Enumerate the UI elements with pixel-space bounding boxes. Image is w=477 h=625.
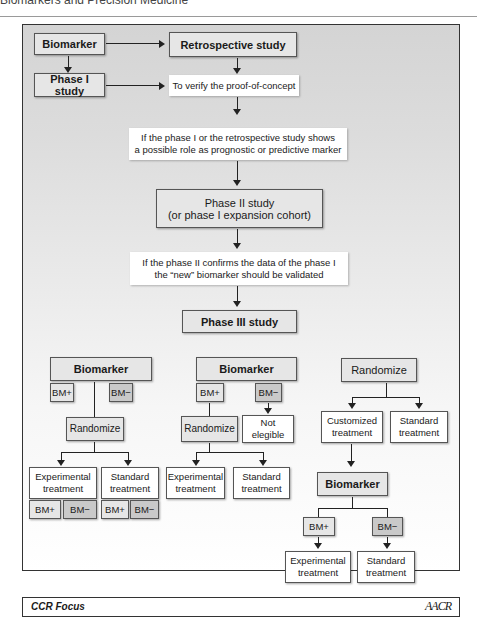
arrow-down-icon <box>233 68 241 74</box>
aacr-logo-icon: AACR <box>425 599 451 614</box>
design2-bm-neg-label: BM− <box>259 387 279 399</box>
design1-exp-bm-neg-label: BM− <box>70 504 90 516</box>
arrow-down-icon <box>259 460 267 466</box>
phase2-line2: (or phase I expansion cohort) <box>168 209 311 221</box>
condition1-line1: If the phase I or the retrospective stud… <box>141 132 335 144</box>
phase1-study-box: Phase I study <box>34 73 105 97</box>
design3-customized-line1: Customized <box>327 415 377 427</box>
design1-randomize-label: Randomize <box>70 423 121 435</box>
design1-biomarker-box: Biomarker <box>50 357 152 381</box>
phase3-label: Phase III study <box>201 316 278 328</box>
design1-std-bm-pos-label: BM+ <box>105 504 125 516</box>
arrow-down-icon <box>192 460 200 466</box>
design3-bm-neg-label: BM− <box>378 521 398 533</box>
design1-biomarker-label: Biomarker <box>74 363 128 375</box>
design3-standard-treatment-line1: Standard <box>367 555 406 567</box>
design2-not-eligible-line1: Not <box>261 417 276 429</box>
connector <box>318 508 319 517</box>
connector <box>352 397 420 398</box>
connector <box>106 43 159 44</box>
condition2-line1: If the phase II confirms the data of the… <box>142 257 335 269</box>
design3-standard-treatment-box: Standard treatment <box>357 551 415 583</box>
connector <box>386 383 387 397</box>
verify-proof-box: To verify the proof-of-concept <box>169 75 299 96</box>
design1-bm-neg-label: BM− <box>111 387 131 399</box>
connector <box>196 452 264 453</box>
connector <box>196 452 197 460</box>
arrow-down-icon <box>264 408 272 414</box>
connector <box>94 382 95 417</box>
header-title: Biomarkers and Precision Medicine <box>0 0 188 7</box>
design1-exp-bm-pos-label: BM+ <box>35 504 55 516</box>
footer-label: CCR Focus <box>31 601 85 612</box>
condition2-line2: the “new” biomarker should be validated <box>155 269 324 281</box>
condition2-box: If the phase II confirms the data of the… <box>130 252 348 285</box>
biomarker-box: Biomarker <box>34 33 105 55</box>
connector <box>106 85 159 86</box>
design3-standard-treatment-line2: treatment <box>366 567 406 579</box>
design1-std-bm-neg-label: BM− <box>135 504 155 516</box>
connector <box>61 452 129 453</box>
connector <box>94 442 95 452</box>
design3-experimental-box: Experimental treatment <box>285 551 351 583</box>
figure-footer: CCR Focus AACR <box>22 597 460 617</box>
design3-experimental-line1: Experimental <box>290 555 345 567</box>
phase2-line1: Phase II study <box>205 197 275 209</box>
design1-standard-line2: treatment <box>110 483 150 495</box>
connector <box>263 452 264 460</box>
arrow-down-icon <box>124 460 132 466</box>
connector <box>237 161 238 180</box>
arrow-down-icon <box>314 543 322 549</box>
connector <box>237 229 238 243</box>
phase1-label: Phase I study <box>35 73 104 97</box>
design2-bm-neg-box: BM− <box>255 383 282 402</box>
design2-not-eligible-box: Not elegible <box>242 415 294 443</box>
design3-biomarker-label: Biomarker <box>325 478 379 490</box>
design2-experimental-line1: Experimental <box>168 471 223 483</box>
connector <box>318 508 388 509</box>
design2-randomize-box: Randomize <box>181 416 238 442</box>
retrospective-label: Retrospective study <box>180 39 285 51</box>
design3-standard-box: Standard treatment <box>390 411 448 443</box>
connector <box>237 286 238 301</box>
design2-standard-box: Standard treatment <box>233 467 290 499</box>
design1-bm-pos-label: BM+ <box>52 387 72 399</box>
design3-randomize-label: Randomize <box>351 364 407 376</box>
phase2-study-box: Phase II study (or phase I expansion coh… <box>156 189 323 228</box>
design2-bm-pos-box: BM+ <box>196 383 224 402</box>
condition1-box: If the phase I or the retrospective stud… <box>129 128 347 160</box>
design3-customized-box: Customized treatment <box>321 411 383 443</box>
condition1-line2: a possible role as prognostic or predict… <box>135 144 342 156</box>
connector <box>352 497 353 508</box>
design2-experimental-box: Experimental treatment <box>166 467 225 499</box>
design3-bm-pos-label: BM+ <box>309 521 329 533</box>
design3-customized-line2: treatment <box>332 427 372 439</box>
connector <box>128 452 129 460</box>
arrow-down-icon <box>347 461 355 467</box>
arrow-down-icon <box>233 180 241 186</box>
design1-experimental-box: Experimental treatment <box>29 467 97 499</box>
phase3-study-box: Phase III study <box>182 310 297 333</box>
design1-exp-bm-neg-box: BM− <box>63 500 97 519</box>
design2-biomarker-box: Biomarker <box>196 357 297 381</box>
design3-experimental-line2: treatment <box>298 567 338 579</box>
arrow-down-icon <box>233 243 241 249</box>
arrow-right-icon <box>159 40 165 48</box>
page-header: Biomarkers and Precision Medicine <box>0 0 477 17</box>
arrow-down-icon <box>57 460 65 466</box>
design3-randomize-box: Randomize <box>341 358 417 382</box>
design2-experimental-line2: treatment <box>175 483 215 495</box>
design1-standard-line1: Standard <box>111 471 150 483</box>
design3-standard-line1: Standard <box>400 415 439 427</box>
connector <box>351 444 352 461</box>
arrow-down-icon <box>233 301 241 307</box>
retrospective-study-box: Retrospective study <box>169 32 297 57</box>
connector <box>387 508 388 517</box>
design3-bm-pos-box: BM+ <box>303 517 335 536</box>
design2-randomize-label: Randomize <box>184 423 235 435</box>
design1-bm-pos-box: BM+ <box>50 383 74 402</box>
design2-biomarker-label: Biomarker <box>219 363 273 375</box>
verify-label: To verify the proof-of-concept <box>172 80 295 92</box>
design2-not-eligible-line2: elegible <box>252 429 285 441</box>
design3-biomarker-box: Biomarker <box>317 472 388 496</box>
